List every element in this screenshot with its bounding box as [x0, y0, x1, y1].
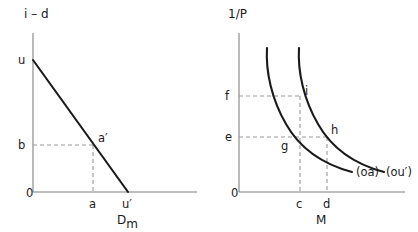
- left-x-axis-label-main: D: [117, 213, 126, 227]
- right-point-g: g: [281, 139, 288, 153]
- right-tick-f: f: [225, 89, 230, 103]
- right-tick-e: e: [225, 130, 232, 144]
- right-point-i: i: [305, 84, 308, 98]
- right-tick-c: c: [296, 197, 302, 211]
- two-panel-economics-diagram: i – d Dm u b 0 a u′ a′: [0, 0, 418, 232]
- right-curve-oa-label: (oa): [356, 165, 379, 179]
- right-origin-label: 0: [231, 186, 238, 200]
- left-tick-a: a: [89, 197, 96, 211]
- left-tick-u: u: [18, 53, 25, 67]
- left-panel: i – d Dm u b 0 a u′ a′: [18, 7, 197, 231]
- right-point-h: h: [331, 123, 338, 137]
- figure-canvas: i – d Dm u b 0 a u′ a′: [0, 0, 418, 232]
- left-tick-u-prime: u′: [122, 197, 132, 211]
- left-x-axis-label-sub: m: [126, 217, 138, 231]
- left-origin-label: 0: [26, 186, 33, 200]
- right-curve-ou-prime-label: (ou′): [386, 165, 412, 179]
- right-curve-oa: [267, 48, 352, 172]
- right-tick-d: d: [323, 197, 330, 211]
- left-x-axis-label: Dm: [117, 213, 138, 231]
- right-y-axis-label: 1/P: [228, 7, 247, 21]
- right-x-axis-label: M: [316, 213, 326, 227]
- left-tick-b: b: [18, 138, 25, 152]
- right-panel: 1/P M f e 0 c d i h g (oa) (ou′): [225, 7, 412, 227]
- left-y-axis-label: i – d: [24, 7, 49, 21]
- left-demand-line: [33, 60, 128, 192]
- left-point-a-prime: a′: [98, 131, 108, 145]
